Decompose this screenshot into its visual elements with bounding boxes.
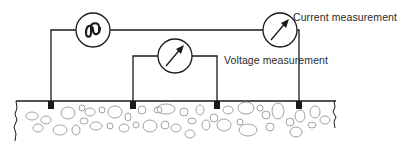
voltage-meter-icon [158,39,192,73]
current-meter-icon [263,13,297,47]
current-measurement-label: Current measurement [293,11,397,23]
electrode-1 [48,101,54,109]
ac-source-icon [76,13,110,47]
wire-voltage-loop-right [192,56,217,101]
ground-left-edge [14,101,17,141]
electrode-3 [214,101,220,109]
ground-right-edge [333,101,336,128]
wire-voltage-loop-left [133,56,158,101]
electrode-4 [296,101,302,109]
soil-pebbles [26,102,330,138]
electrode-2 [130,101,136,109]
wire-current-loop-left [51,30,76,101]
voltage-measurement-label: Voltage measurement [224,54,328,66]
